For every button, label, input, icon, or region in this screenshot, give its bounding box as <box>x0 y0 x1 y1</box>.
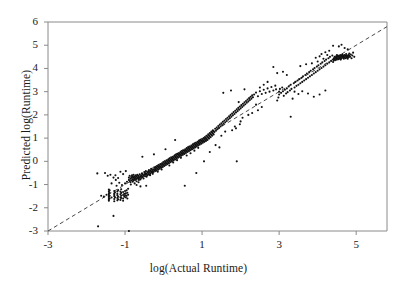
data-point <box>317 60 319 62</box>
data-point <box>220 135 222 137</box>
data-point <box>294 86 296 88</box>
data-point <box>96 172 98 174</box>
data-point <box>315 57 317 59</box>
data-point <box>117 196 119 198</box>
data-point <box>120 197 122 199</box>
x-tick-label: -1 <box>115 238 135 250</box>
data-point <box>176 159 178 161</box>
data-point <box>272 66 274 68</box>
data-point <box>240 120 242 122</box>
data-point <box>127 188 129 190</box>
data-point <box>122 200 124 202</box>
data-point <box>117 198 119 200</box>
data-point <box>236 160 238 162</box>
data-point <box>161 168 163 170</box>
data-point <box>283 95 285 97</box>
data-point <box>338 45 340 47</box>
data-point <box>294 91 296 93</box>
data-point <box>120 195 122 197</box>
data-point <box>288 86 290 88</box>
data-point <box>112 215 114 217</box>
data-point <box>121 184 123 186</box>
data-point <box>353 56 355 58</box>
data-point <box>247 114 249 116</box>
data-point <box>281 86 283 88</box>
data-point <box>116 193 118 195</box>
data-point <box>295 85 297 87</box>
data-point <box>253 93 255 95</box>
data-point <box>136 180 138 182</box>
data-point <box>130 184 132 186</box>
data-point <box>97 225 99 227</box>
data-point <box>107 175 109 177</box>
data-point <box>319 68 321 70</box>
data-point <box>117 177 119 179</box>
data-point <box>126 197 128 199</box>
data-point <box>267 81 269 83</box>
data-point <box>325 59 327 61</box>
data-point <box>297 93 299 95</box>
data-point <box>299 65 301 67</box>
data-point <box>326 54 328 56</box>
data-point <box>340 44 342 46</box>
data-point <box>328 61 330 63</box>
data-point <box>313 73 315 75</box>
data-point <box>117 189 119 191</box>
data-point <box>315 71 317 73</box>
data-point <box>128 230 130 232</box>
data-point <box>301 81 303 83</box>
data-point <box>168 164 170 166</box>
data-point <box>243 88 245 90</box>
data-point <box>286 74 288 76</box>
data-point <box>114 196 116 198</box>
data-point <box>272 89 274 91</box>
data-point <box>331 54 333 56</box>
data-point <box>184 185 186 187</box>
data-point <box>329 56 331 58</box>
data-point <box>255 104 257 106</box>
data-point <box>321 61 323 63</box>
data-point <box>241 117 243 119</box>
data-point <box>270 86 272 88</box>
data-point <box>122 197 124 199</box>
data-point <box>320 53 322 55</box>
scatter-plot-figure: -3-2-10123456-3-1135 log(Actual Runtime)… <box>0 0 397 286</box>
data-point <box>282 71 284 73</box>
data-point <box>141 156 143 158</box>
data-point <box>297 84 299 86</box>
data-point <box>328 50 330 52</box>
data-point <box>215 144 217 146</box>
data-point <box>261 106 263 108</box>
data-point <box>305 63 307 65</box>
data-point <box>213 133 215 135</box>
data-point <box>289 89 291 91</box>
data-point <box>319 55 321 57</box>
data-point <box>307 92 309 94</box>
data-point <box>320 67 322 69</box>
data-point <box>290 84 292 86</box>
data-point <box>230 89 232 91</box>
data-point <box>127 194 129 196</box>
data-point <box>299 82 301 84</box>
data-point <box>255 92 257 94</box>
data-point <box>125 170 127 172</box>
data-point <box>180 157 182 159</box>
data-point <box>311 74 313 76</box>
data-point <box>126 189 128 191</box>
data-point <box>324 51 326 53</box>
data-point <box>311 62 313 64</box>
data-point <box>314 67 316 69</box>
data-point <box>294 81 296 83</box>
data-point <box>293 82 295 84</box>
data-point <box>120 192 122 194</box>
data-point <box>298 78 300 80</box>
data-point <box>326 63 328 65</box>
data-point <box>239 123 241 125</box>
data-point <box>347 48 349 50</box>
data-point <box>195 172 197 174</box>
data-point <box>282 90 284 92</box>
data-point <box>152 173 154 175</box>
data-point <box>290 88 292 90</box>
data-point <box>287 91 289 93</box>
data-point <box>267 87 269 89</box>
